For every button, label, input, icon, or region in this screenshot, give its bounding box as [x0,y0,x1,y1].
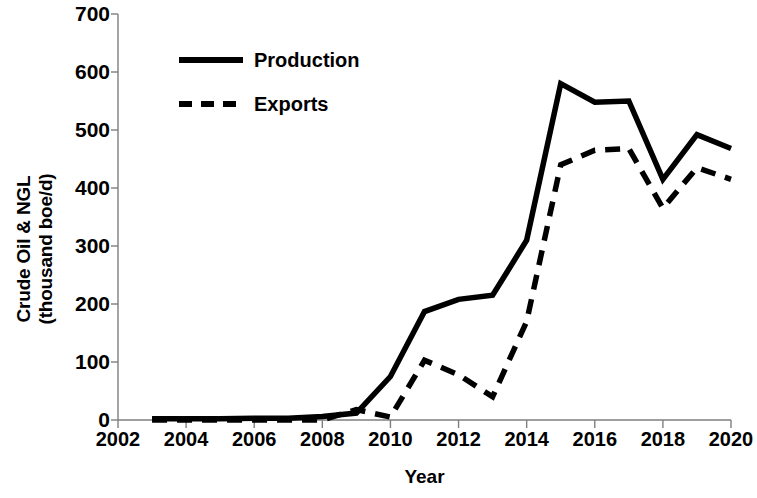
legend-item: Production [178,38,408,82]
legend: ProductionExports [178,38,408,126]
legend-label: Production [254,49,360,72]
legend-swatch-solid [178,51,244,69]
legend-swatch-dashed [178,95,244,113]
legend-item: Exports [178,82,408,126]
legend-label: Exports [254,93,328,116]
data-series [152,84,731,420]
series-line-exports [152,149,731,420]
